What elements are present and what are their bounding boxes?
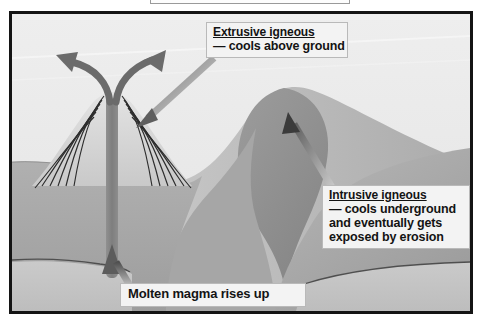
callout-extrusive-description: — cools above ground xyxy=(213,39,341,53)
diagram-stage: Extrusive igneous — cools above ground I… xyxy=(0,0,482,325)
diagram-svg xyxy=(12,14,470,311)
callout-intrusive-line3: exposed by erosion xyxy=(329,230,463,244)
callout-intrusive-line2: and eventually gets xyxy=(329,216,463,230)
diagram-canvas xyxy=(12,14,470,311)
callout-extrusive-igneous[interactable]: Extrusive igneous — cools above ground xyxy=(206,22,348,58)
callout-magma-text: Molten magma rises up xyxy=(128,287,298,302)
callout-intrusive-line1: — cools underground xyxy=(329,202,463,216)
callout-intrusive-igneous[interactable]: Intrusive igneous — cools underground an… xyxy=(322,185,470,249)
cropped-box-above xyxy=(150,0,350,4)
callout-extrusive-heading: Extrusive igneous xyxy=(213,26,341,39)
callout-intrusive-heading: Intrusive igneous xyxy=(329,189,463,202)
callout-molten-magma[interactable]: Molten magma rises up xyxy=(120,283,306,307)
